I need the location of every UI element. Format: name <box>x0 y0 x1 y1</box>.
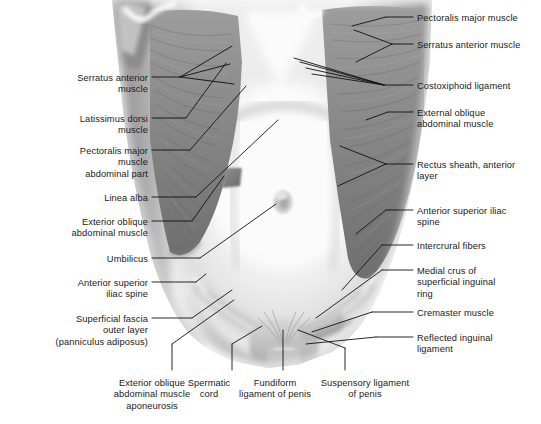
label-linea-alba: Linea alba <box>104 193 148 204</box>
label-costoxiphoid-ligament: Costoxiphoid ligament <box>417 81 510 92</box>
label-pectoralis-major-muscle: Pectoralis major muscle <box>417 13 518 24</box>
label-pectoralis-major-muscle-abdominal-part: Pectoralis major muscle abdominal part <box>80 146 148 180</box>
label-exterior-oblique-abdominal-muscle: Exterior oblique abdominal muscle <box>72 217 148 240</box>
label-cremaster-muscle: Cremaster muscle <box>417 308 494 319</box>
label-suspensory-ligament-of-penis: Suspensory ligament of penis <box>321 378 410 401</box>
label-medial-crus-of-superficial-inguinal-ring: Medial crus of superficial inguinal ring <box>417 266 495 300</box>
label-serratus-anterior-muscle: Serratus anterior muscle <box>77 73 148 96</box>
label-anterior-superior-iliac-spine: Anterior superior iliac spine <box>417 206 506 229</box>
label-intercrural-fibers: Intercrural fibers <box>417 241 486 252</box>
label-superficial-fascia-outer-layer-panniculus-adipos: Superficial fascia outer layer (pannicul… <box>56 314 148 348</box>
label-serratus-anterior-muscle: Serratus anterior muscle <box>417 40 521 51</box>
label-rectus-sheath-anterior-layer: Rectus sheath, anterior layer <box>417 160 515 183</box>
anatomy-figure: Serratus anterior muscleLatissimus dorsi… <box>0 0 541 424</box>
label-latissimus-dorsi-muscle: Latissimus dorsi muscle <box>80 114 148 137</box>
label-external-oblique-abdominal-muscle: External oblique abdominal muscle <box>417 108 493 131</box>
label-layer: Serratus anterior muscleLatissimus dorsi… <box>0 0 541 424</box>
label-fundiform-ligament-of-penis: Fundiform ligament of penis <box>239 378 311 401</box>
label-umbilicus: Umbilicus <box>107 254 148 265</box>
label-spermatic-cord: Spermatic cord <box>188 378 231 401</box>
label-exterior-oblique-abdominal-muscle-aponeurosis: Exterior oblique abdominal muscle aponeu… <box>114 378 190 412</box>
label-anterior-superior-iliac-spine: Anterior superior iliac spine <box>78 278 148 301</box>
label-reflected-inguinal-ligament: Reflected inguinal ligament <box>417 333 493 356</box>
